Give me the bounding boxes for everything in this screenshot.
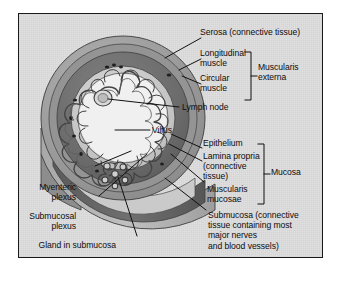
lumen [79,74,167,162]
label-gland-in-submucosa: Gland in submucosa [6,240,116,250]
label-longitudinal-muscle: Longitudinal muscle [200,48,246,68]
leader-serosa [165,38,201,58]
label-muscularis-externa: Muscularis externa [258,62,299,82]
lymph-node-structure [94,90,112,106]
label-mucosa: Mucosa [271,167,301,177]
label-circular-muscle: Circular muscle [200,73,229,93]
label-muscularis-mucosae: Muscularis mucosae [207,184,248,204]
label-submucosa: Submucosa (connective tissue containing … [208,210,299,251]
figure-root: Serosa (connective tissue) Longitudinal … [0,0,340,282]
label-serosa: Serosa (connective tissue) [200,27,300,37]
label-lymph-node: Lymph node [182,102,228,112]
label-lamina-propria: Lamina propria (connective tissue) [203,151,260,182]
label-villus: Villus [152,125,172,135]
label-epithelium: Epithelium [203,138,243,148]
label-myenteric-plexus: Myenteric plexus [6,182,76,202]
label-submucosal-plexus: Submucosal plexus [2,211,76,231]
muscularis-externa-bracket [245,52,257,100]
